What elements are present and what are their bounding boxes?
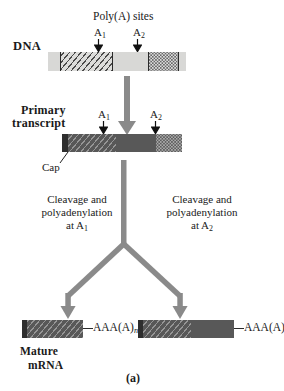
dna-site-a1-label: A1 bbox=[94, 26, 106, 39]
poly-a-sites-title: Poly(A) sites bbox=[93, 10, 153, 24]
primary-transcript-row-label-line2: transcript bbox=[12, 116, 65, 130]
transcript-site-a2-label: A2 bbox=[150, 108, 162, 121]
mature-mrna-left-bar bbox=[22, 320, 83, 338]
mrna-right-tail-connector bbox=[234, 328, 244, 329]
transcript-segment-exon-hatched bbox=[68, 134, 116, 152]
transcript-segment-intron-dark bbox=[116, 134, 156, 152]
mrna-right-segment-exon-hatched bbox=[143, 320, 191, 338]
dna-divider-3 bbox=[148, 52, 149, 71]
dna-divider-1 bbox=[60, 52, 61, 71]
figure-panel-a: Poly(A) sites A1 A2 DNA Primary transcri… bbox=[0, 0, 284, 391]
dna-site-a2-label: A2 bbox=[133, 26, 145, 39]
transcript-segment-exon-stippled bbox=[156, 134, 182, 152]
dna-segment-flank-left bbox=[48, 52, 60, 71]
primary-transcript-bar bbox=[62, 134, 182, 152]
mrna-left-segment-exon-hatched bbox=[27, 320, 83, 338]
mature-mrna-row-label-line1: Mature bbox=[20, 345, 58, 359]
transcript-site-a1-label: A1 bbox=[98, 108, 110, 121]
mrna-left-poly-a-tail-label: AAA(A)n bbox=[93, 321, 138, 335]
dna-divider-2 bbox=[112, 52, 113, 71]
dna-segment-flank-right bbox=[178, 52, 186, 71]
mrna-right-poly-a-tail-label: AAA(A)n bbox=[244, 321, 284, 335]
dna-bar bbox=[48, 52, 186, 71]
mature-mrna-row-label-line2: mRNA bbox=[28, 359, 63, 373]
panel-label: (a) bbox=[126, 371, 140, 385]
mature-mrna-right-bar bbox=[138, 320, 234, 338]
dna-row-label: DNA bbox=[13, 39, 41, 54]
dna-site-a1-arrow-icon bbox=[94, 39, 103, 52]
dna-site-a2-arrow-icon bbox=[133, 39, 142, 52]
mrna-right-segment-exon-dark bbox=[191, 320, 234, 338]
transcript-site-a2-arrow-icon bbox=[151, 121, 160, 134]
dna-segment-exon-hatched bbox=[60, 52, 112, 71]
dna-segment-exon-stippled bbox=[148, 52, 178, 71]
dna-divider-4 bbox=[178, 52, 179, 71]
transcription-arrow-icon bbox=[116, 76, 138, 136]
dna-segment-intron-plain bbox=[112, 52, 148, 71]
transcript-site-a1-arrow-icon bbox=[99, 121, 108, 134]
branching-arrow-icon bbox=[20, 160, 264, 322]
mrna-left-tail-connector bbox=[83, 328, 93, 329]
